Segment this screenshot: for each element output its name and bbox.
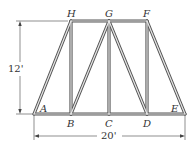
member-dg [109,21,147,114]
member-bg [71,21,109,114]
node-label-b: B [66,118,74,129]
node-label-g: G [105,8,113,19]
member-ef [147,21,185,114]
node-label-e: E [170,103,179,114]
node-label-f: F [142,8,151,19]
node-label-c: C [105,118,113,129]
truss-diagram: 12' 20' A B C D E F G H [0,0,196,149]
node-label-a: A [39,103,47,114]
width-dimension-label: 20' [101,130,116,141]
member-ah [34,21,71,114]
node-label-d: D [142,118,151,129]
height-dimension-label: 12' [8,63,23,74]
node-label-h: H [66,8,76,19]
